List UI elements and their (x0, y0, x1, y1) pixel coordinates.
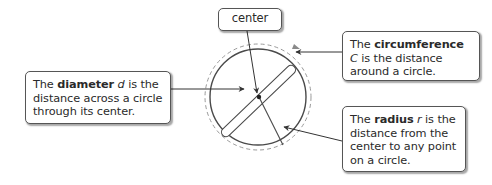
center-label: center (218, 8, 282, 31)
radius-term: radius (374, 113, 413, 126)
center-leader-arrow (247, 31, 257, 93)
circumference-variable: C (350, 52, 358, 65)
circumference-definition: is the distance around a circle. (350, 52, 442, 79)
diameter-variable: d (118, 78, 125, 91)
diameter-callout: The diameter d is the distance across a … (25, 71, 171, 124)
center-point (257, 95, 261, 99)
circle-parts-diagram: center The diameter d is the distance ac… (0, 0, 492, 185)
circumference-direction-arrowhead (292, 44, 300, 49)
circumference-term: circumference (374, 38, 464, 51)
radius-line (259, 97, 283, 145)
radius-prefix: The (350, 113, 374, 126)
radius-leader-arrow (284, 127, 342, 141)
circumference-prefix: The (350, 38, 374, 51)
diameter-term: diameter (57, 78, 114, 91)
center-label-text: center (232, 11, 268, 25)
radius-callout: The radius r is the distance from the ce… (342, 106, 466, 172)
circumference-callout: The circumference C is the distance arou… (342, 31, 480, 81)
diameter-prefix: The (33, 78, 57, 91)
